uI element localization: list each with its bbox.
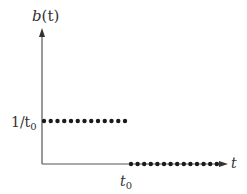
data-point	[69, 119, 73, 123]
data-point	[96, 119, 100, 123]
x-axis-arrow-icon	[219, 161, 228, 167]
y-axis-arrow-icon	[39, 28, 45, 37]
y-tick-label: 1/t0	[11, 114, 37, 132]
data-point	[109, 119, 113, 123]
data-point	[195, 162, 199, 166]
data-point	[103, 119, 107, 123]
data-point	[62, 119, 66, 123]
data-point	[42, 119, 46, 123]
data-point	[149, 162, 153, 166]
data-point	[89, 119, 93, 123]
data-point	[168, 162, 172, 166]
series-upper-dots	[42, 119, 127, 123]
data-point	[82, 119, 86, 123]
data-point	[162, 162, 166, 166]
x-axis-label: t	[231, 155, 237, 171]
x-tick-label: t0	[120, 173, 132, 191]
data-point	[215, 162, 219, 166]
data-point	[123, 119, 127, 123]
data-point	[201, 162, 205, 166]
data-point	[49, 119, 53, 123]
data-point	[129, 162, 133, 166]
y-axis-label: b(t)	[32, 7, 59, 25]
data-point	[188, 162, 192, 166]
data-point	[175, 162, 179, 166]
data-point	[76, 119, 80, 123]
data-point	[182, 162, 186, 166]
data-point	[208, 162, 212, 166]
data-point	[55, 119, 59, 123]
data-point	[142, 162, 146, 166]
chart: b(t) t 1/t0 t0	[0, 0, 247, 194]
data-point	[135, 162, 139, 166]
data-point	[116, 119, 120, 123]
data-point	[155, 162, 159, 166]
